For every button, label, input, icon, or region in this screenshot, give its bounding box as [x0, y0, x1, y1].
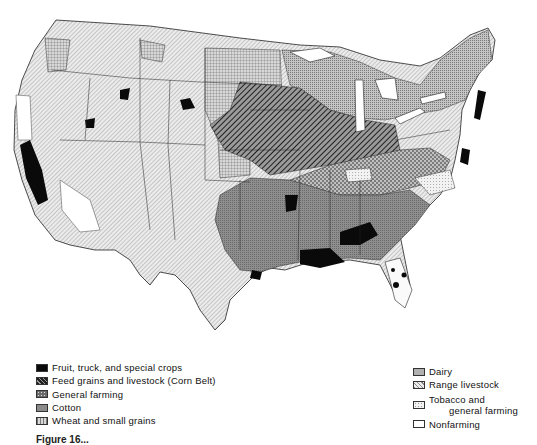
swatch-feed-icon — [36, 377, 48, 385]
legend-label: Nonfarming — [429, 418, 480, 431]
legend-item-wheat: Wheat and small grains — [36, 414, 216, 427]
swatch-general-icon — [36, 390, 48, 398]
swatch-nonfarming-icon — [413, 420, 425, 428]
legend-label: Feed grains and livestock (Corn Belt) — [52, 374, 216, 387]
region-nw-coast — [16, 95, 32, 140]
swatch-range-icon — [413, 381, 425, 389]
legend-item-dairy: Dairy — [413, 365, 518, 378]
legend-item-tobacco: Tobacco and general farming — [413, 392, 518, 418]
region-wheat-nw — [45, 38, 70, 72]
legend-label-line2: general farming — [429, 405, 518, 416]
swatch-dairy-icon — [413, 368, 425, 376]
legend-label: Wheat and small grains — [52, 414, 156, 427]
legend-label: Range livestock — [429, 378, 499, 391]
legend-item-nonfarming: Nonfarming — [413, 418, 518, 431]
swatch-tobacco-icon — [413, 401, 425, 409]
region-tobacco-ky — [345, 168, 372, 182]
legend-item-fruit-truck: Fruit, truck, and special crops — [36, 361, 216, 374]
legend-label-line1: Tobacco and — [429, 394, 518, 405]
legend-item-general-farming: General farming — [36, 388, 216, 401]
legend-left: Fruit, truck, and special crops Feed gra… — [36, 361, 216, 427]
swatch-cotton-icon — [36, 404, 48, 412]
swatch-fruit-icon — [36, 364, 48, 372]
legend-label: Dairy — [429, 365, 452, 378]
swatch-wheat-icon — [36, 417, 48, 425]
figure-caption: Figure 16... — [36, 434, 89, 445]
legend-item-cotton: Cotton — [36, 401, 216, 414]
legend-label: Tobacco and general farming — [429, 394, 518, 416]
legend-label: General farming — [52, 388, 123, 401]
us-farming-map — [0, 0, 537, 345]
legend-label: Cotton — [52, 401, 81, 414]
legend-item-range-livestock: Range livestock — [413, 378, 518, 391]
legend-item-feed-grains: Feed grains and livestock (Corn Belt) — [36, 374, 216, 387]
legend-label: Fruit, truck, and special crops — [52, 361, 182, 374]
lake-michigan — [355, 80, 365, 132]
legend-right: Dairy Range livestock Tobacco and genera… — [413, 365, 518, 431]
